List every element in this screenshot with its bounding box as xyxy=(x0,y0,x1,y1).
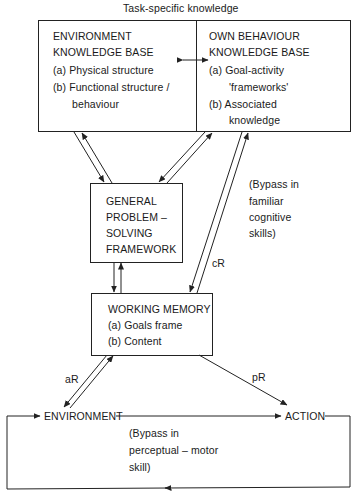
env-kb-item-b-2: behaviour xyxy=(72,96,119,112)
env-kb-title-1: ENVIRONMENT xyxy=(53,28,132,44)
bypass-cognitive-4: skills) xyxy=(249,225,276,241)
gps-line-3: SOLVING xyxy=(106,225,153,241)
beh-kb-item-b-2: knowledge xyxy=(229,112,280,128)
bypass-cognitive-1: (Bypass in xyxy=(249,176,299,192)
beh-kb-item-b-1: (b) Associated xyxy=(209,96,277,112)
bypass-perceptual-1: (Bypass in xyxy=(129,425,179,441)
bypass-cognitive-2: familiar xyxy=(249,193,284,209)
wm-item-a: (a) Goals frame xyxy=(108,317,182,333)
pr-label: pR xyxy=(252,369,266,385)
environment-node: ENVIRONMENT xyxy=(44,408,123,424)
gps-line-1: GENERAL xyxy=(106,193,157,209)
env-kb-item-b-1: (b) Functional structure / xyxy=(53,79,169,95)
gps-line-2: PROBLEM – xyxy=(106,209,167,225)
bypass-cognitive-3: cognitive xyxy=(249,209,291,225)
ar-label: aR xyxy=(65,371,79,387)
wm-title: WORKING MEMORY xyxy=(108,301,211,317)
kb-divider xyxy=(196,20,197,132)
gps-line-4: FRAMEWORK xyxy=(106,241,176,257)
env-kb-item-a: (a) Physical structure xyxy=(53,62,154,78)
bypass-perceptual-3: skill) xyxy=(129,459,151,475)
gps-to-envkb-arrow xyxy=(82,133,112,183)
cr-label: cR xyxy=(212,255,225,271)
pr-arrow xyxy=(199,355,287,405)
beh-kb-item-a-2: 'frameworks' xyxy=(229,79,288,95)
diagram-title: Task-specific knowledge xyxy=(123,0,239,16)
env-kb-title-2: KNOWLEDGE BASE xyxy=(53,44,154,60)
gps-to-behkb-arrow xyxy=(167,133,212,183)
beh-kb-title-1: OWN BEHAVIOUR xyxy=(209,28,300,44)
action-node: ACTION xyxy=(285,408,325,424)
behkb-to-gps-arrow xyxy=(159,132,205,182)
envkb-to-gps-arrow xyxy=(74,132,104,182)
beh-kb-item-a-1: (a) Goal-activity xyxy=(209,62,284,78)
beh-kb-title-2: KNOWLEDGE BASE xyxy=(209,44,310,60)
wm-item-b: (b) Content xyxy=(108,333,162,349)
bypass-perceptual-2: perceptual – motor xyxy=(129,442,218,458)
